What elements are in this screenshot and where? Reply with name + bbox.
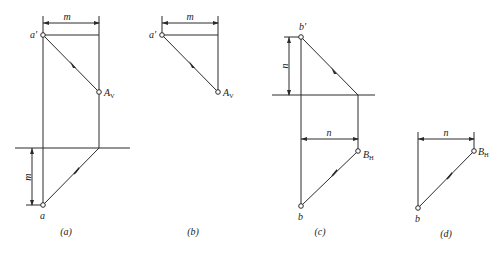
direction-arrow-icon [70, 61, 76, 68]
label-m-top: m [63, 11, 70, 22]
label-bh: BH [478, 146, 489, 158]
figure-d: n BH b (d) [415, 127, 489, 240]
caption-d: (d) [440, 228, 452, 240]
point-a [41, 203, 46, 208]
label-m-left: m [22, 173, 33, 180]
point-bh [356, 149, 361, 154]
label-av: AV [103, 87, 115, 99]
label-a: a [40, 210, 45, 221]
point-b-prime [299, 35, 304, 40]
front-view-line [301, 37, 358, 95]
caption-c: (c) [314, 226, 326, 238]
point-a-prime [41, 33, 46, 38]
direction-arrow-icon [189, 61, 195, 68]
point-bh [472, 149, 477, 154]
label-n-left: n [279, 64, 290, 69]
figure-a: m m a' AV a (a) [15, 11, 130, 238]
label-a-prime: a' [30, 29, 38, 40]
label-bh: BH [363, 149, 374, 161]
top-view-line [301, 151, 358, 206]
point-av [216, 90, 221, 95]
label-b: b [415, 213, 420, 224]
direction-arrow-icon [74, 168, 79, 174]
caption-b: (b) [187, 226, 199, 238]
point-a-prime [160, 33, 165, 38]
point-av [97, 90, 102, 95]
label-b: b [298, 211, 303, 222]
label-b-prime: b' [299, 21, 307, 32]
label-m-top: m [186, 11, 193, 22]
caption-a: (a) [60, 226, 72, 238]
figure-c: b' n n BH b (c) [272, 21, 375, 238]
label-n-top: n [444, 127, 449, 138]
top-view-line [418, 151, 474, 208]
point-b [416, 206, 421, 211]
label-a-prime: a' [149, 29, 157, 40]
front-view-line [43, 35, 99, 92]
direction-arrow-icon [447, 173, 452, 179]
direction-arrow-icon [332, 170, 337, 176]
figure-b: m a' AV (b) [149, 11, 234, 238]
projection-diagram: m m a' AV a (a) m a' AV (b) b' [0, 0, 495, 253]
label-n-mid: n [327, 127, 332, 138]
top-view-line [43, 148, 99, 205]
label-av: AV [222, 87, 234, 99]
point-b [299, 204, 304, 209]
front-view-line [162, 35, 218, 92]
